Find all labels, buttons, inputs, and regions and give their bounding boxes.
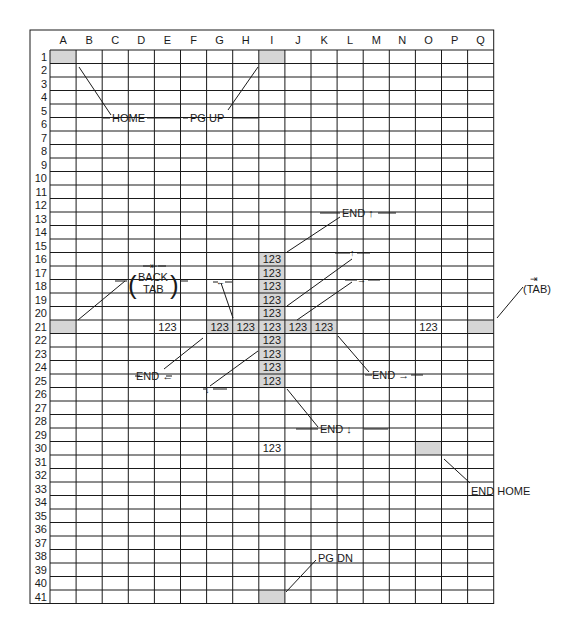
arrow-left-icon: ← [216, 277, 225, 287]
cell-value: 123 [210, 321, 228, 333]
column-header: J [295, 34, 301, 46]
row-header: 14 [35, 226, 47, 238]
cell-value: 123 [263, 253, 281, 265]
spreadsheet-navigation-diagram: ABCDEFGHIJKLMNOPQ 1234567891011121314151… [0, 0, 579, 634]
row-header: 21 [35, 321, 47, 333]
row-header: 2 [41, 64, 47, 76]
row-headers: 1234567891011121314151617181920212223242… [35, 51, 47, 603]
column-header: H [242, 34, 250, 46]
row-header: 10 [35, 172, 47, 184]
row-header: 23 [35, 348, 47, 360]
cell-value: 123 [419, 321, 437, 333]
column-header: N [398, 34, 406, 46]
tab-label: (TAB) [523, 283, 551, 295]
shaded-cell [415, 442, 441, 456]
column-header: K [320, 34, 328, 46]
row-header: 41 [35, 591, 47, 603]
cell-value: 123 [263, 442, 281, 454]
end-home-label: END HOME [471, 485, 530, 497]
column-header: P [451, 34, 458, 46]
row-header: 39 [35, 564, 47, 576]
row-header: 3 [41, 78, 47, 90]
row-header: 33 [35, 483, 47, 495]
cell-value: 123 [289, 321, 307, 333]
home-label: HOME [112, 112, 145, 124]
row-header: 22 [35, 334, 47, 346]
cell-value: 123 [237, 321, 255, 333]
end-right-label: END → [372, 369, 409, 381]
row-header: 16 [35, 253, 47, 265]
row-header: 7 [41, 132, 47, 144]
row-header: 37 [35, 537, 47, 549]
row-header: 19 [35, 294, 47, 306]
column-headers: ABCDEFGHIJKLMNOPQ [59, 34, 485, 46]
column-header: L [347, 34, 353, 46]
shaded-cell [259, 590, 285, 604]
row-header: 13 [35, 213, 47, 225]
cell-value: 123 [263, 294, 281, 306]
column-header: O [424, 34, 433, 46]
cell-values: 1231231231231231231231231231231231231231… [158, 253, 437, 454]
row-header: 38 [35, 550, 47, 562]
row-header: 5 [41, 105, 47, 117]
end-up-label: END ↑ [342, 207, 374, 219]
cell-value: 123 [263, 321, 281, 333]
row-header: 28 [35, 415, 47, 427]
row-header: 25 [35, 375, 47, 387]
row-header: 24 [35, 361, 47, 373]
row-header: 27 [35, 402, 47, 414]
row-header: 32 [35, 469, 47, 481]
cell-value: 123 [263, 334, 281, 346]
paren-open: ( [128, 270, 137, 300]
back-tab-label-line2: TAB [143, 283, 164, 295]
end-down-label: END ↓ [320, 423, 352, 435]
end-left-label: END ← [136, 370, 173, 382]
row-header: 26 [35, 388, 47, 400]
callout-labels: HOME PG UP END ↑ ↑ → ⇤ ( BACK TAB ) ← EN… [112, 112, 551, 564]
cell-value: 123 [263, 348, 281, 360]
cell-value: 123 [263, 280, 281, 292]
cell-value: 123 [158, 321, 176, 333]
arrow-down-icon: ↓ [205, 385, 210, 395]
row-header: 1 [41, 51, 47, 63]
column-header: B [85, 34, 92, 46]
row-header: 17 [35, 267, 47, 279]
row-header: 20 [35, 307, 47, 319]
column-header: Q [476, 34, 485, 46]
back-tab-label-line1: BACK [138, 271, 169, 283]
row-header: 36 [35, 523, 47, 535]
row-header: 9 [41, 159, 47, 171]
arrow-up-icon: ↑ [350, 248, 355, 258]
column-header: A [59, 34, 67, 46]
row-header: 31 [35, 456, 47, 468]
row-header: 8 [41, 145, 47, 157]
column-header: I [270, 34, 273, 46]
column-header: M [372, 34, 381, 46]
pg-dn-label: PG DN [318, 552, 353, 564]
shaded-cell [259, 50, 285, 64]
paren-close: ) [170, 270, 179, 300]
pg-up-label: PG UP [190, 112, 224, 124]
shaded-cell [468, 320, 494, 334]
column-header: F [190, 34, 197, 46]
row-header: 18 [35, 280, 47, 292]
shaded-cell [50, 320, 76, 334]
back-tab-arrow-icon: ⇤ [150, 261, 158, 271]
arrow-right-icon: → [357, 275, 366, 285]
row-header: 40 [35, 577, 47, 589]
row-header: 29 [35, 429, 47, 441]
row-header: 12 [35, 199, 47, 211]
cell-value: 123 [315, 321, 333, 333]
cell-value: 123 [263, 375, 281, 387]
column-header: G [215, 34, 224, 46]
row-header: 34 [35, 496, 47, 508]
row-header: 35 [35, 510, 47, 522]
column-header: E [164, 34, 171, 46]
column-header: C [111, 34, 119, 46]
row-header: 11 [36, 186, 47, 198]
grid-canvas: ABCDEFGHIJKLMNOPQ 1234567891011121314151… [0, 0, 579, 634]
shaded-cell [50, 50, 76, 64]
cell-value: 123 [263, 267, 281, 279]
row-header: 30 [35, 442, 47, 454]
column-header: D [137, 34, 145, 46]
